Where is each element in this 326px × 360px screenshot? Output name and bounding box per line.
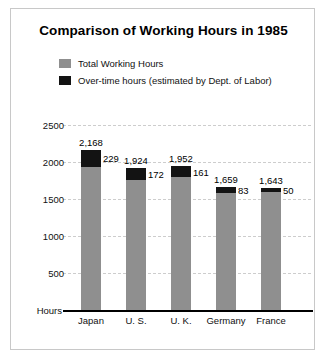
plot-area: Hours 25002000150010005002,168229Japan1,… — [11, 9, 316, 351]
y-axis-tick-label: 2000 — [4, 157, 64, 168]
bar-segment-total — [126, 168, 146, 310]
bar-segment-overtime — [171, 166, 191, 178]
bar-overtime-value-label: 50 — [283, 185, 294, 196]
bar-overtime-value-label: 83 — [238, 185, 249, 196]
x-axis-baseline — [63, 310, 313, 312]
gridline — [63, 125, 311, 126]
y-axis-label: Hours — [37, 305, 62, 316]
bar-total-value-label: 1,952 — [151, 153, 211, 164]
bar-segment-total — [261, 188, 281, 310]
bar-segment-total — [216, 187, 236, 310]
bar-uk — [171, 166, 191, 310]
y-axis-tick-label: 1500 — [4, 194, 64, 205]
x-axis-category-label: France — [236, 315, 306, 326]
bar-segment-total — [171, 166, 191, 310]
bar-overtime-value-label: 172 — [148, 169, 164, 180]
bar-segment-total — [81, 150, 101, 310]
bar-segment-overtime — [126, 168, 146, 181]
chart-figure: Comparison of Working Hours in 1985 Tota… — [10, 8, 315, 350]
bar-japan — [81, 150, 101, 310]
bar-total-value-label: 2,168 — [61, 137, 121, 148]
bar-segment-overtime — [81, 150, 101, 167]
bar-germany — [216, 187, 236, 310]
y-axis-tick-label: 2500 — [4, 120, 64, 131]
bar-segment-overtime — [216, 187, 236, 193]
bar-france — [261, 188, 281, 310]
y-axis-tick-label: 500 — [4, 268, 64, 279]
bar-segment-overtime — [261, 188, 281, 192]
y-axis-tick-label: 1000 — [4, 231, 64, 242]
bar-us — [126, 168, 146, 310]
